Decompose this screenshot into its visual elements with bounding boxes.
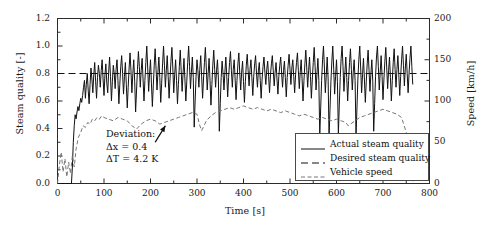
y-left-tick-1.0: 1.0 bbox=[20, 40, 50, 50]
legend-line-sample-1 bbox=[300, 153, 326, 163]
y-left-tick-1.2: 1.2 bbox=[20, 13, 50, 23]
legend-entry-2: Vehicle speed bbox=[300, 165, 424, 179]
y-right-tick-150: 150 bbox=[434, 54, 464, 64]
deviation-annotation-dt: ΔT = 4.2 K bbox=[106, 153, 158, 166]
x-axis-title: Time [s] bbox=[160, 205, 330, 216]
x-tick-400: 400 bbox=[224, 188, 264, 198]
x-tick-200: 200 bbox=[131, 188, 171, 198]
chart-figure: Steam quality [-] Speed [km/h] Time [s] … bbox=[0, 0, 482, 228]
legend-entry-0: Actual steam quality bbox=[300, 137, 424, 151]
legend-entry-1: Desired steam quality bbox=[300, 151, 424, 165]
y-right-tick-50: 50 bbox=[434, 136, 464, 146]
x-tick-300: 300 bbox=[177, 188, 217, 198]
y-left-tick-0.0: 0.0 bbox=[20, 178, 50, 188]
legend-label-0: Actual steam quality bbox=[330, 139, 424, 149]
deviation-annotation: Deviation: Δx = 0.4 ΔT = 4.2 K bbox=[106, 128, 158, 166]
x-tick-500: 500 bbox=[270, 188, 310, 198]
x-tick-800: 800 bbox=[410, 188, 450, 198]
y-left-tick-0.4: 0.4 bbox=[20, 123, 50, 133]
deviation-annotation-title: Deviation: bbox=[106, 128, 158, 141]
y-right-tick-0: 0 bbox=[434, 178, 464, 188]
x-tick-700: 700 bbox=[363, 188, 403, 198]
x-tick-600: 600 bbox=[317, 188, 357, 198]
legend-label-1: Desired steam quality bbox=[330, 153, 430, 163]
chart-legend: Actual steam qualityDesired steam qualit… bbox=[295, 133, 429, 181]
legend-label-2: Vehicle speed bbox=[330, 167, 393, 177]
y-left-tick-0.6: 0.6 bbox=[20, 95, 50, 105]
y-axis-right-title: Speed [km/h] bbox=[465, 19, 476, 169]
legend-line-sample-2 bbox=[300, 167, 326, 177]
legend-line-sample-0 bbox=[300, 139, 326, 149]
y-left-tick-0.8: 0.8 bbox=[20, 68, 50, 78]
y-right-tick-100: 100 bbox=[434, 95, 464, 105]
deviation-annotation-dx: Δx = 0.4 bbox=[106, 141, 158, 154]
x-tick-0: 0 bbox=[38, 188, 78, 198]
y-left-tick-0.2: 0.2 bbox=[20, 150, 50, 160]
y-right-tick-200: 200 bbox=[434, 13, 464, 23]
x-tick-100: 100 bbox=[84, 188, 124, 198]
